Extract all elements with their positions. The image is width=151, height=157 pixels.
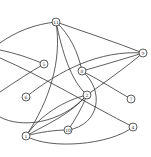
edge-6-9 — [26, 53, 143, 97]
node-label: 7 — [130, 97, 133, 102]
node-label: 8 — [81, 69, 84, 74]
node-label: 4 — [132, 125, 135, 130]
node-6[interactable]: 6 — [22, 93, 30, 101]
node-label: 10 — [65, 128, 71, 133]
edge-2-1-b — [26, 95, 87, 136]
node-9[interactable]: 9 — [139, 49, 147, 57]
node-4[interactable]: 4 — [129, 123, 137, 131]
node-label: 2 — [86, 93, 89, 98]
node-label: 1 — [25, 134, 28, 139]
node-7[interactable]: 7 — [127, 95, 135, 103]
node-label: 9 — [142, 51, 145, 56]
edge-4-left — [0, 58, 133, 127]
edge-5-left — [0, 50, 44, 64]
edge-1-4 — [26, 127, 133, 144]
edge-11-1 — [26, 22, 58, 136]
edge-1-10 — [26, 130, 68, 136]
graph-canvas: 11 9 5 8 6 2 7 10 4 1 — [0, 0, 151, 157]
node-label: 6 — [25, 95, 28, 100]
edge-11-left — [0, 22, 56, 43]
edge-9-8 — [82, 53, 143, 71]
node-label: 11 — [53, 20, 59, 25]
node-1[interactable]: 1 — [22, 132, 30, 140]
edge-9-2 — [87, 53, 143, 95]
node-11[interactable]: 11 — [52, 18, 60, 26]
edge-11-2 — [56, 22, 87, 95]
node-2[interactable]: 2 — [83, 91, 91, 99]
node-label: 5 — [43, 62, 46, 67]
edges — [0, 22, 143, 144]
node-10[interactable]: 10 — [64, 126, 72, 134]
node-5[interactable]: 5 — [40, 60, 48, 68]
edge-2-1-a — [26, 95, 87, 136]
node-8[interactable]: 8 — [78, 67, 86, 75]
